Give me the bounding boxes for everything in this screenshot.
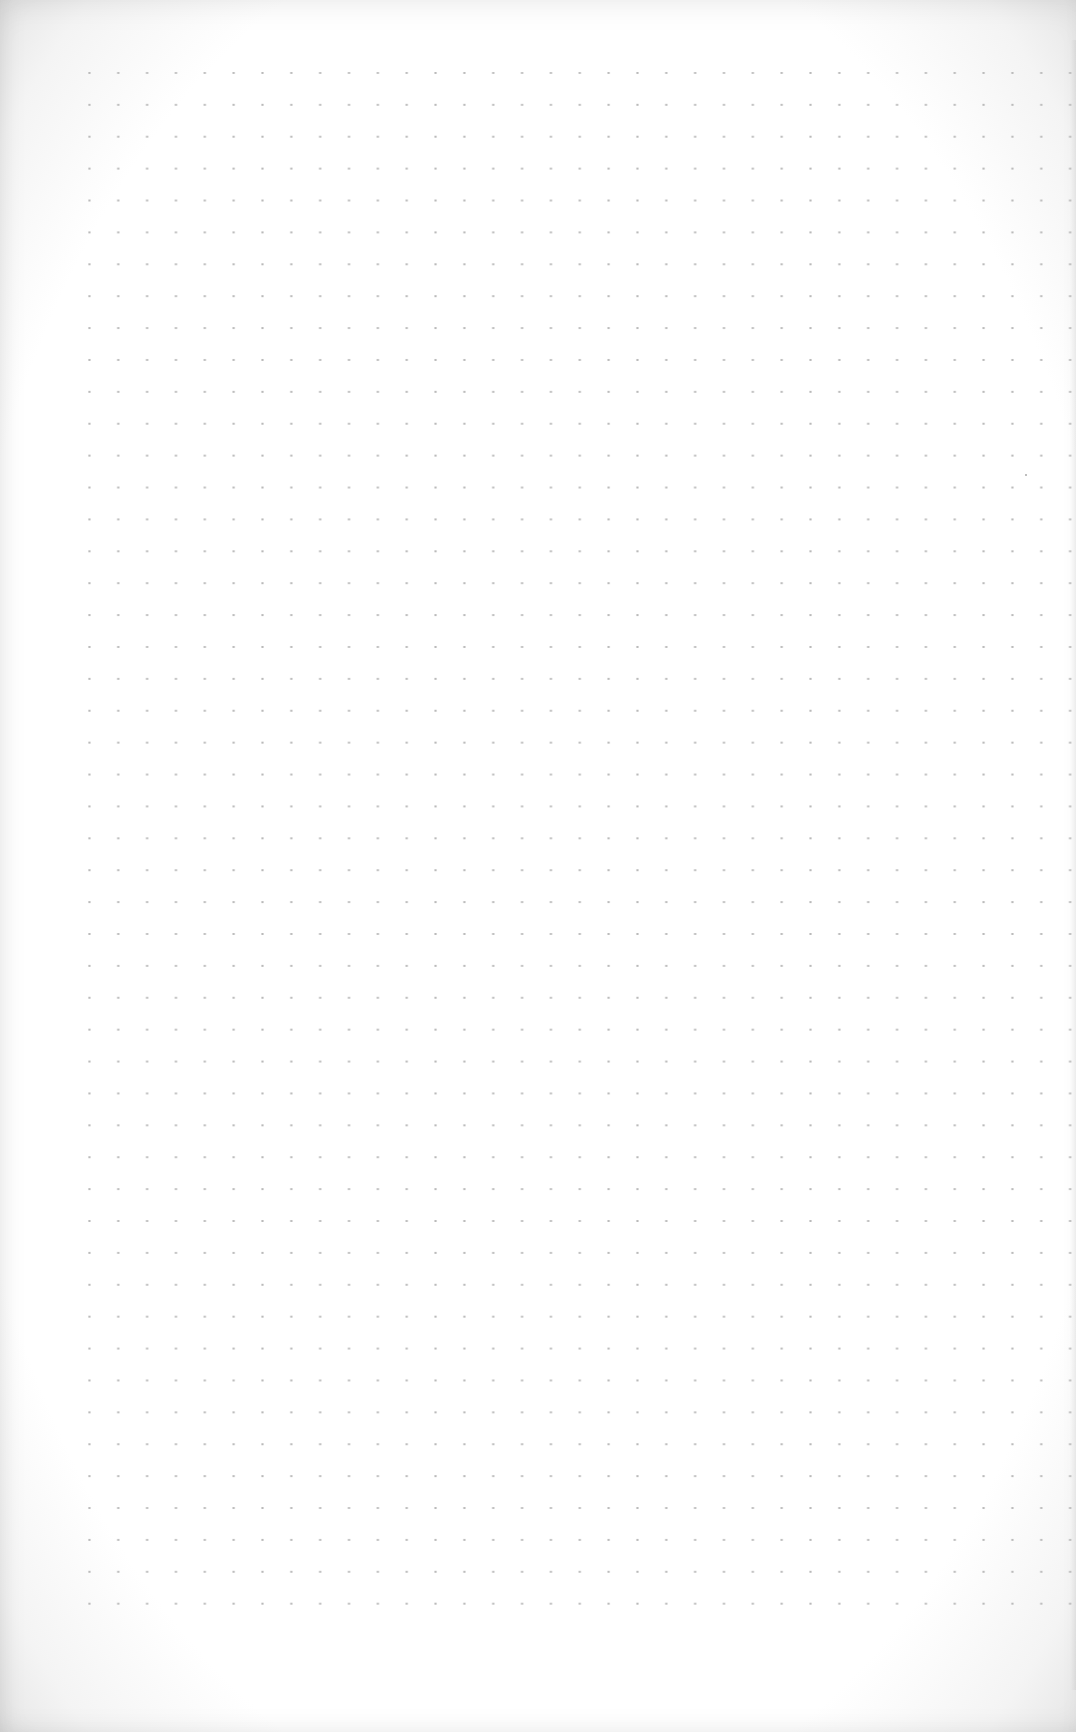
paper-edge-shadow — [1070, 40, 1076, 1690]
paper-sheet — [0, 0, 1076, 1732]
stray-mark — [1025, 474, 1027, 476]
dot-grid — [88, 72, 1073, 1608]
